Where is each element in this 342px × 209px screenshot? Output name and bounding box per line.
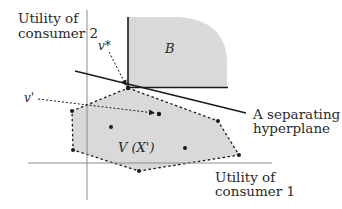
vertex-point <box>137 169 141 173</box>
feasible-set-label: V (X') <box>118 140 155 155</box>
region-b <box>128 17 227 87</box>
y-axis-label-line2: consumer 2 <box>18 25 98 41</box>
region-b-label: B <box>164 41 175 56</box>
y-axis-label-line1: Utility of <box>18 10 79 26</box>
v-star-label: v* <box>98 39 111 53</box>
vertex-point <box>216 119 220 123</box>
vertex-point <box>237 153 241 157</box>
point-v-prime <box>157 112 161 116</box>
vertex-point <box>71 148 75 152</box>
interior-point <box>109 125 113 129</box>
interior-point <box>183 146 187 150</box>
vertex-optimal-point <box>126 86 130 90</box>
v-prime-label: v' <box>24 91 34 105</box>
feasible-set-region <box>72 88 239 171</box>
separating-hyperplane-diagram: Utility of consumer 2 Utility of consume… <box>0 0 342 209</box>
x-axis-label-line2: consumer 1 <box>215 183 295 199</box>
vertex-point <box>70 109 74 113</box>
hyperplane-label-line2: hyperplane <box>253 120 330 136</box>
